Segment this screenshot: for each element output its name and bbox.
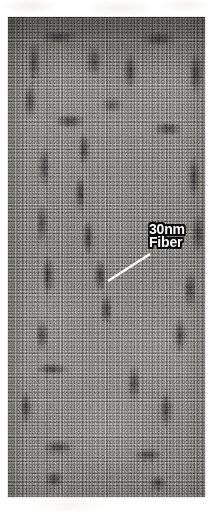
figure-page: 30nm Fiber (0, 0, 212, 511)
annotation-label-line-2: Fiber (149, 236, 185, 249)
annotation-leader-line (0, 0, 212, 511)
annotation-label-30nm-fiber: 30nm Fiber (149, 223, 185, 249)
leader-line-stroke (108, 254, 150, 281)
